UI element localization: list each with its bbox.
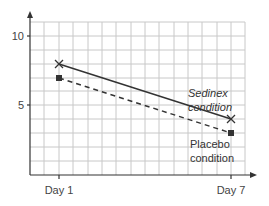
- x-tick-day1: Day 1: [45, 184, 74, 196]
- y-axis-arrow-icon: [27, 11, 33, 18]
- square-marker-icon: [56, 75, 62, 81]
- sedinex-annotation-line2: condition: [188, 101, 232, 113]
- line-chart: 10 5 Day 1 Day 7 Sedinex condition Place…: [0, 0, 269, 206]
- square-marker-icon: [228, 130, 234, 136]
- sedinex-annotation-line1: Sedinex: [188, 87, 228, 99]
- y-tick-5: 5: [18, 99, 24, 111]
- placebo-annotation-line2: condition: [190, 152, 234, 164]
- x-tick-day7: Day 7: [217, 184, 246, 196]
- placebo-annotation-line1: Placebo: [190, 138, 230, 150]
- x-axis-arrow-icon: [250, 172, 257, 178]
- y-tick-10: 10: [12, 30, 24, 42]
